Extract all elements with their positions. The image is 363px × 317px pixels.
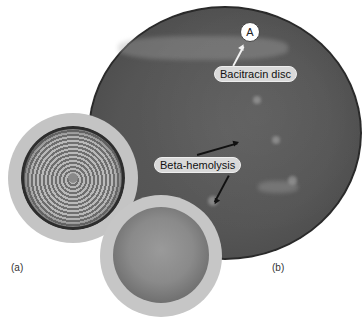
bacitracin-disc-callout: Bacitracin disc [214, 66, 297, 82]
bacitracin-disc-marker: A [240, 22, 260, 42]
bacterial-streak [118, 36, 288, 60]
colony [253, 96, 261, 104]
colony [272, 136, 280, 144]
beta-hemolysis-callout: Beta-hemolysis [154, 157, 241, 173]
petri-dish-a-bottom [100, 195, 222, 317]
bacterial-streak [258, 181, 298, 193]
colony-growth-pattern [21, 126, 125, 230]
panel-label-a: (a) [11, 262, 23, 273]
agar-surface [113, 207, 209, 303]
panel-label-b: (b) [272, 262, 284, 273]
